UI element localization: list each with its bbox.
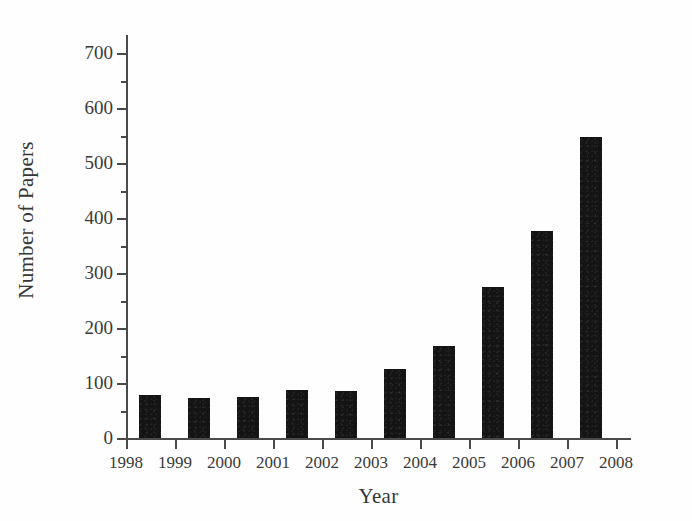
y-tick-label: 600: [85, 97, 114, 119]
y-tick-label: 500: [85, 152, 114, 174]
bar: [482, 287, 504, 438]
x-axis-line: [126, 438, 631, 440]
x-tick-label: 2005: [452, 453, 486, 473]
y-tick-minor: [121, 301, 126, 303]
y-tick-minor: [121, 191, 126, 193]
y-tick-major: [117, 383, 126, 385]
x-tick-label: 2006: [501, 453, 535, 473]
y-tick-minor: [121, 411, 126, 413]
bar: [335, 391, 357, 438]
bar: [384, 369, 406, 438]
x-tick-label: 1998: [109, 453, 143, 473]
y-tick-major: [117, 53, 126, 55]
x-tick: [175, 440, 177, 449]
y-tick-label: 700: [85, 42, 114, 64]
x-tick: [567, 440, 569, 449]
x-tick: [518, 440, 520, 449]
y-tick-major: [117, 108, 126, 110]
x-tick-label: 2007: [550, 453, 584, 473]
y-tick-label: 200: [85, 317, 114, 339]
y-tick-major: [117, 218, 126, 220]
x-tick-label: 2000: [207, 453, 241, 473]
y-tick-major: [117, 163, 126, 165]
x-tick: [322, 440, 324, 449]
x-tick-label: 2003: [354, 453, 388, 473]
bar-chart: Number of Papers 0100200300400500600700 …: [0, 0, 692, 521]
y-tick-label: 0: [104, 427, 114, 449]
x-axis-title: Year: [126, 484, 631, 509]
y-tick-minor: [121, 246, 126, 248]
x-tick: [616, 440, 618, 449]
y-tick-minor: [121, 356, 126, 358]
x-tick-label: 2001: [256, 453, 290, 473]
bar: [286, 390, 308, 438]
bar: [433, 346, 455, 438]
x-tick-label: 2002: [305, 453, 339, 473]
y-tick-minor: [121, 136, 126, 138]
bar: [531, 231, 553, 438]
y-tick-label: 400: [85, 207, 114, 229]
x-tick-label: 2008: [599, 453, 633, 473]
x-tick: [420, 440, 422, 449]
x-tick: [371, 440, 373, 449]
y-axis-line: [126, 35, 128, 440]
x-tick: [273, 440, 275, 449]
x-tick-label: 1999: [158, 453, 192, 473]
bar: [139, 395, 161, 438]
y-tick-minor: [121, 81, 126, 83]
y-axis-title: Number of Papers: [14, 0, 54, 440]
y-tick-label: 300: [85, 262, 114, 284]
x-tick-label: 2004: [403, 453, 437, 473]
bar: [580, 137, 602, 438]
y-tick-major: [117, 438, 126, 440]
x-tick: [224, 440, 226, 449]
y-tick-major: [117, 328, 126, 330]
x-tick: [469, 440, 471, 449]
bar: [188, 398, 210, 438]
bar: [237, 397, 259, 438]
y-tick-label: 100: [85, 372, 114, 394]
x-tick: [126, 440, 128, 449]
plot-area: 0100200300400500600700 19981999200020012…: [126, 35, 631, 440]
y-tick-major: [117, 273, 126, 275]
